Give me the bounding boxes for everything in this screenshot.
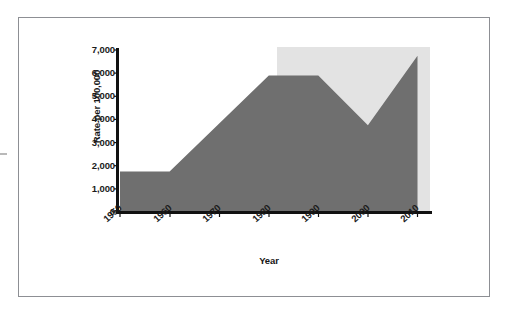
x-tick-label-1990: 1990 — [299, 189, 336, 224]
x-tick-label-1980: 1980 — [250, 189, 287, 224]
x-tick-label-1960: 1960 — [151, 189, 188, 224]
x-axis-tick-labels: 1950 1960 1970 1980 1990 2000 2010 — [0, 0, 507, 320]
x-axis-title: Year — [120, 255, 418, 266]
figure-root: 0 1,000 2,000 3,000 4,000 5,000 6,000 7,… — [0, 0, 507, 320]
area-chart: 0 1,000 2,000 3,000 4,000 5,000 6,000 7,… — [0, 0, 507, 320]
x-tick-label-1950: 1950 — [101, 189, 138, 224]
x-tick-label-1970: 1970 — [200, 189, 237, 224]
x-tick-label-2010: 2010 — [398, 189, 435, 224]
x-tick-label-2000: 2000 — [349, 189, 386, 224]
